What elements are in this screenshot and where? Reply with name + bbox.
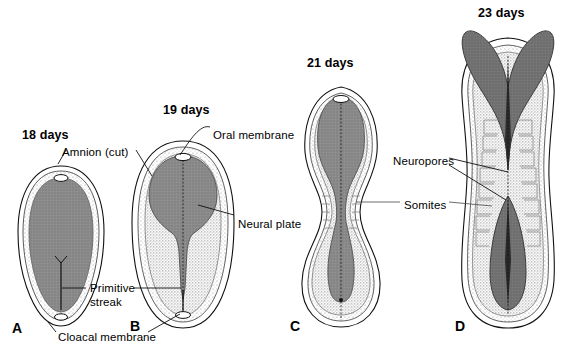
annotation-neuropores: Neuropores xyxy=(393,155,454,167)
panel-letter-c: C xyxy=(290,318,300,334)
panel-d-embryo xyxy=(462,31,555,328)
panel-letter-a: A xyxy=(12,320,22,336)
panel-letter-b: B xyxy=(130,318,140,334)
caudal-node-c xyxy=(339,298,343,302)
oral-membrane-marker-c xyxy=(333,96,349,103)
annotation-somites: Somites xyxy=(404,199,446,211)
panel-letter-d: D xyxy=(455,318,465,334)
cloacal-membrane-marker-a xyxy=(55,314,68,320)
oral-membrane-marker-a xyxy=(54,175,68,182)
annotation-oral-membrane: Oral membrane xyxy=(213,129,294,141)
day-label-19: 19 days xyxy=(163,103,210,117)
annotation-cloacal-membrane: Cloacal membrane xyxy=(58,331,156,343)
annotation-primitive-streak-line1: Primitive xyxy=(90,282,135,294)
annotation-neural-plate: Neural plate xyxy=(238,218,301,230)
annotation-primitive-streak-line2: streak xyxy=(90,296,122,308)
annotation-amnion: Amnion (cut) xyxy=(62,146,128,158)
embryology-figure: 18 days 19 days 21 days 23 days Amnion (… xyxy=(0,0,585,358)
day-label-21: 21 days xyxy=(307,56,354,70)
day-label-23: 23 days xyxy=(478,6,525,20)
panel-c-embryo xyxy=(302,87,380,327)
day-label-18: 18 days xyxy=(22,128,69,142)
embryo-stages-illustration xyxy=(0,0,585,358)
oral-membrane-marker-b xyxy=(175,153,191,160)
